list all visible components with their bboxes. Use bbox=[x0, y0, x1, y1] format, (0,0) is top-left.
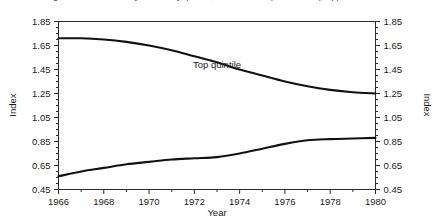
x-axis-tick-label: 1970 bbox=[139, 196, 160, 207]
y-axis-right-tick-label: 1.25 bbox=[384, 88, 403, 99]
y-axis-right-ticks bbox=[376, 22, 381, 190]
y-axis-right-tick-label: 0.85 bbox=[384, 136, 403, 147]
x-axis-tick-label: 1978 bbox=[320, 196, 341, 207]
y-axis-left-ticks bbox=[54, 22, 59, 190]
x-axis-tick-label: 1968 bbox=[93, 196, 114, 207]
x-axis-tick-labels: 19661968197019721974197619781980 bbox=[48, 196, 386, 207]
line-chart-svg: 0.450.650.851.051.251.451.651.85 0.450.6… bbox=[0, 0, 436, 224]
y-axis-right-tick-label: 1.65 bbox=[384, 40, 403, 51]
x-axis-tick-label: 1974 bbox=[229, 196, 250, 207]
x-axis-tick-label: 1972 bbox=[184, 196, 205, 207]
x-axis-tick-label: 1976 bbox=[274, 196, 295, 207]
plot-frame bbox=[59, 22, 376, 190]
y-axis-left-tick-label: 1.05 bbox=[32, 112, 51, 123]
y-axis-left-tick-label: 0.85 bbox=[32, 136, 51, 147]
x-axis-tick-label: 1966 bbox=[48, 196, 69, 207]
y-axis-left-tick-label: 1.85 bbox=[32, 16, 51, 27]
y-axis-right-tick-labels: 0.450.650.851.051.251.451.651.85 bbox=[384, 16, 403, 195]
y-axis-right-tick-label: 0.65 bbox=[384, 160, 403, 171]
y-axis-right-tick-label: 0.45 bbox=[384, 184, 403, 195]
y-axis-right-tick-label: 1.05 bbox=[384, 112, 403, 123]
y-axis-left-tick-label: 1.65 bbox=[32, 40, 51, 51]
series-label-top-quintile: Top quintile bbox=[193, 59, 241, 70]
y-axis-right-tick-label: 1.85 bbox=[384, 16, 403, 27]
x-axis-title: Year bbox=[207, 207, 226, 218]
y-axis-right-title: Index bbox=[422, 93, 433, 116]
y-axis-left-tick-label: 0.65 bbox=[32, 160, 51, 171]
y-axis-right-tick-label: 1.45 bbox=[384, 64, 403, 75]
x-axis-tick-label: 1980 bbox=[365, 196, 386, 207]
chart-figure: Figure 1. Index of family income by quin… bbox=[0, 0, 436, 224]
y-axis-left-tick-labels: 0.450.650.851.051.251.451.651.85 bbox=[32, 16, 51, 195]
y-axis-left-tick-label: 0.45 bbox=[32, 184, 51, 195]
y-axis-left-tick-label: 1.45 bbox=[32, 64, 51, 75]
series-line-bottom-quintile bbox=[59, 138, 376, 176]
series-annotations: Top quintile bbox=[193, 59, 241, 70]
x-axis-ticks bbox=[59, 190, 376, 195]
y-axis-left-tick-label: 1.25 bbox=[32, 88, 51, 99]
y-axis-left-title: Index bbox=[7, 93, 18, 116]
